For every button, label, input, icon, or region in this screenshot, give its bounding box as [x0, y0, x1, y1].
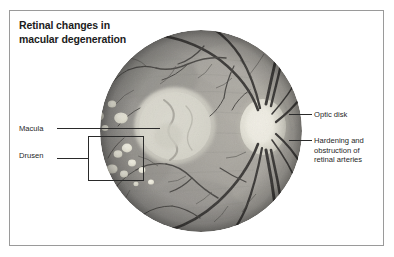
label-hardening-obstruction: Hardening and obstruction of retinal art… — [314, 136, 380, 165]
figure-title-line-1: Retinal changes in — [19, 19, 179, 33]
figure-title: Retinal changes in macular degeneration — [19, 19, 179, 46]
drusen-leader-line — [57, 158, 89, 159]
fundus-svg — [100, 30, 302, 232]
retinal-fundus-photograph — [100, 30, 302, 232]
label-drusen: Drusen — [19, 151, 43, 161]
retinal-changes-figure: Retinal changes in macular degeneration — [0, 0, 394, 257]
rim-vignette — [100, 30, 302, 232]
label-optic-disk: Optic disk — [314, 110, 347, 120]
macula-leader-line — [57, 128, 160, 129]
label-macula: Macula — [19, 124, 43, 134]
hardening-leader-line — [289, 140, 312, 141]
fundus-disc — [100, 30, 302, 232]
optic-disk-leader-line — [289, 114, 312, 115]
drusen-callout-box — [88, 136, 144, 181]
figure-title-line-2: macular degeneration — [19, 33, 179, 47]
